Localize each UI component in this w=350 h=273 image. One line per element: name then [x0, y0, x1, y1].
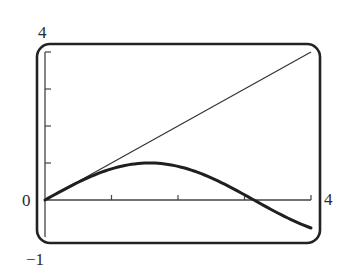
graph-window: 4 0 −1 4: [0, 0, 350, 273]
y-axis: [45, 52, 51, 237]
x-axis: [45, 195, 311, 200]
origin-label: 0: [22, 191, 31, 210]
x-max-label: 4: [324, 190, 333, 209]
y-axis-ticks: [45, 52, 51, 163]
y-max-label: 4: [38, 23, 47, 42]
x-axis-ticks: [112, 195, 312, 200]
y-min-label: −1: [26, 250, 44, 269]
